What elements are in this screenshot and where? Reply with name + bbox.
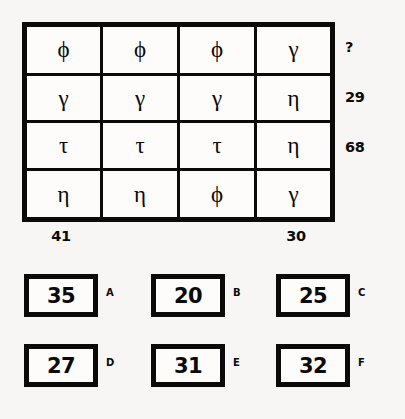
matrix-cell: η xyxy=(256,122,333,170)
option-b[interactable]: 20 B xyxy=(145,268,271,328)
matrix-cell: γ xyxy=(102,74,179,122)
option-f[interactable]: 32 F xyxy=(270,338,396,398)
option-a-value[interactable]: 35 xyxy=(24,274,98,317)
puzzle-root: ϕ ϕ ϕ γ γ γ γ η τ τ τ η η xyxy=(0,0,405,419)
option-d[interactable]: 27 D xyxy=(18,338,144,398)
row-sum-1: ? xyxy=(345,22,389,72)
option-a-letter: A xyxy=(106,287,114,298)
option-f-value[interactable]: 32 xyxy=(276,344,350,387)
matrix-cell: τ xyxy=(102,122,179,170)
column-sum-4: 30 xyxy=(257,228,335,244)
column-sum-1: 41 xyxy=(22,228,100,244)
matrix-cell: η xyxy=(256,74,333,122)
column-sum-labels: 41 30 xyxy=(22,228,335,252)
matrix-cell: τ xyxy=(25,122,102,170)
matrix-cell: ϕ xyxy=(179,170,256,220)
matrix-cell: γ xyxy=(25,74,102,122)
table-row: ϕ ϕ ϕ γ xyxy=(25,25,333,75)
matrix-cell: γ xyxy=(256,25,333,75)
option-c-value[interactable]: 25 xyxy=(276,274,350,317)
option-e-value[interactable]: 31 xyxy=(151,344,225,387)
option-c-letter: C xyxy=(358,287,365,298)
row-sum-2: 29 xyxy=(345,72,389,122)
row-sum-4 xyxy=(345,172,389,222)
matrix-cell: τ xyxy=(179,122,256,170)
table-row: η η ϕ γ xyxy=(25,170,333,220)
row-sum-3: 68 xyxy=(345,122,389,172)
option-d-value[interactable]: 27 xyxy=(24,344,98,387)
option-b-value[interactable]: 20 xyxy=(151,274,225,317)
option-b-letter: B xyxy=(233,287,241,298)
matrix-table: ϕ ϕ ϕ γ γ γ γ η τ τ τ η η xyxy=(22,22,335,222)
answer-options: 35 A 20 B 25 C 27 D 31 E 32 F xyxy=(0,268,405,408)
option-c[interactable]: 25 C xyxy=(270,268,396,328)
matrix-cell: η xyxy=(102,170,179,220)
table-row: γ γ γ η xyxy=(25,74,333,122)
option-e[interactable]: 31 E xyxy=(145,338,271,398)
matrix-cell: ϕ xyxy=(179,25,256,75)
option-a[interactable]: 35 A xyxy=(18,268,144,328)
table-row: τ τ τ η xyxy=(25,122,333,170)
option-e-letter: E xyxy=(233,357,240,368)
option-d-letter: D xyxy=(106,357,114,368)
option-f-letter: F xyxy=(358,357,365,368)
symbol-matrix: ϕ ϕ ϕ γ γ γ γ η τ τ τ η η xyxy=(22,22,335,222)
matrix-cell: γ xyxy=(256,170,333,220)
matrix-cell: γ xyxy=(179,74,256,122)
matrix-cell: ϕ xyxy=(102,25,179,75)
matrix-cell: ϕ xyxy=(25,25,102,75)
row-sum-labels: ? 29 68 xyxy=(345,22,403,222)
matrix-cell: η xyxy=(25,170,102,220)
